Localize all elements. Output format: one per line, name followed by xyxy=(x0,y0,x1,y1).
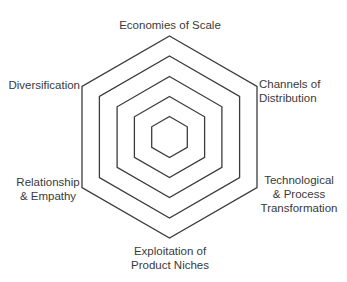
concentric-hexagon-diagram xyxy=(0,0,347,282)
label-line: Distribution xyxy=(259,91,320,105)
label-line: Exploitation of xyxy=(110,244,230,258)
label-line: & Empathy xyxy=(10,189,86,203)
label-line: Diversification xyxy=(0,78,80,92)
label-line: & Process xyxy=(252,187,346,201)
label-diversification: Diversification xyxy=(0,78,80,92)
hexagon-ring-1 xyxy=(82,36,257,238)
label-line: Technological xyxy=(252,173,346,187)
label-line: Economies of Scale xyxy=(105,18,235,32)
label-line: Transformation xyxy=(252,201,346,215)
label-economies-of-scale: Economies of Scale xyxy=(105,18,235,32)
label-exploitation-of-product-niches: Exploitation of Product Niches xyxy=(110,244,230,272)
hexagon-ring-2 xyxy=(99,56,239,218)
hexagon-rings xyxy=(82,36,257,238)
label-technological-process-transformation: Technological & Process Transformation xyxy=(252,173,346,215)
hexagon-ring-3 xyxy=(117,77,222,198)
label-line: Relationship xyxy=(10,175,86,189)
hexagon-ring-4 xyxy=(134,97,204,178)
label-channels-of-distribution: Channels of Distribution xyxy=(259,77,320,105)
label-line: Channels of xyxy=(259,77,320,91)
label-relationship-empathy: Relationship & Empathy xyxy=(10,175,86,203)
label-line: Product Niches xyxy=(110,258,230,272)
hexagon-ring-5 xyxy=(152,117,188,158)
